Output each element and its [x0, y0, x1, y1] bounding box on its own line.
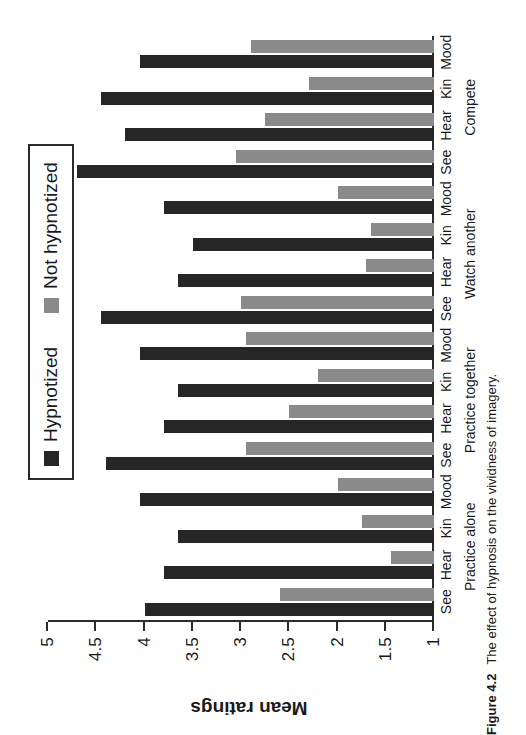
- bar-not-hypnotized: [246, 441, 434, 454]
- category-tick-label: Hear: [438, 402, 460, 434]
- bar-not-hypnotized: [371, 222, 434, 235]
- category-tick-label: Hear: [438, 109, 460, 141]
- y-axis-tick-label: 1.5: [376, 637, 396, 661]
- bar-pair: [48, 366, 434, 398]
- category-tick-label: Mood: [438, 329, 460, 361]
- y-axis-tick-label: 4.5: [86, 637, 106, 661]
- bar-pair: [48, 585, 434, 617]
- bar-pair: [48, 403, 434, 435]
- category-tick-label: Kin: [438, 512, 460, 544]
- bar-not-hypnotized: [236, 149, 434, 162]
- bar-not-hypnotized: [280, 587, 434, 600]
- bar-chart: Hypnotized Not hypnotized Mean ratings 5…: [34, 18, 464, 718]
- bar-hypnotized: [140, 55, 434, 68]
- bar-hypnotized: [178, 383, 434, 396]
- y-axis-tick: 1: [432, 622, 434, 631]
- bar-not-hypnotized: [309, 76, 434, 89]
- bar-group: [48, 328, 434, 474]
- bar-not-hypnotized: [318, 368, 434, 381]
- category-tick-label: Mood: [438, 182, 460, 214]
- category-tick-label: Mood: [438, 36, 460, 68]
- bar-pair: [48, 184, 434, 216]
- category-tick-label: See: [438, 585, 460, 617]
- bar-hypnotized: [164, 420, 434, 433]
- bar-pair: [48, 330, 434, 362]
- bar-hypnotized: [101, 310, 434, 323]
- bar-pair: [48, 111, 434, 143]
- category-tick-label: See: [438, 292, 460, 324]
- bar-hypnotized: [193, 237, 434, 250]
- y-axis-tick-label: 2.5: [279, 637, 299, 661]
- category-tick-label: Mood: [438, 475, 460, 507]
- bar-hypnotized: [77, 164, 434, 177]
- y-axis-tick-label: 3: [231, 637, 251, 647]
- category-label-group: SeeHearKinMood: [438, 327, 460, 474]
- bar-group: [48, 182, 434, 328]
- bar-not-hypnotized: [265, 113, 434, 126]
- rotated-figure-container: Hypnotized Not hypnotized Mean ratings 5…: [34, 18, 464, 718]
- bar-pair: [48, 549, 434, 581]
- bar-hypnotized: [178, 274, 434, 287]
- bar-pair: [48, 512, 434, 544]
- bar-not-hypnotized: [251, 40, 434, 53]
- bar-pair: [48, 293, 434, 325]
- bar-hypnotized: [145, 602, 435, 615]
- figure-number: Figure 4.2: [484, 674, 499, 735]
- bar-series-container: [48, 36, 434, 620]
- category-tick-label: See: [438, 146, 460, 178]
- y-axis-tick: 5: [46, 622, 48, 631]
- bar-not-hypnotized: [362, 514, 434, 527]
- bar-group: [48, 474, 434, 620]
- category-tick-label: Kin: [438, 72, 460, 104]
- category-tick-label: Hear: [438, 548, 460, 580]
- y-axis-tick-label: 2: [328, 637, 348, 647]
- bar-not-hypnotized: [289, 405, 434, 418]
- category-tick-labels: SeeHearKinMoodSeeHearKinMoodSeeHearKinMo…: [438, 34, 460, 620]
- category-tick-label: Hear: [438, 255, 460, 287]
- y-axis-tick: 3: [239, 622, 241, 631]
- category-label-group: SeeHearKinMood: [438, 180, 460, 327]
- bar-pair: [48, 476, 434, 508]
- bar-hypnotized: [164, 201, 434, 214]
- bar-pair: [48, 38, 434, 70]
- figure-caption: Figure 4.2 The effect of hypnosis on the…: [478, 0, 504, 735]
- bar-pair: [48, 220, 434, 252]
- bar-pair: [48, 257, 434, 289]
- bar-hypnotized: [101, 91, 434, 104]
- category-tick-label: Kin: [438, 219, 460, 251]
- bar-not-hypnotized: [391, 551, 434, 564]
- y-axis-tick: 2: [336, 622, 338, 631]
- bar-hypnotized: [164, 566, 434, 579]
- bar-not-hypnotized: [241, 295, 434, 308]
- bar-hypnotized: [125, 128, 434, 141]
- bar-pair: [48, 147, 434, 179]
- bar-hypnotized: [140, 493, 434, 506]
- category-label-group: SeeHearKinMood: [438, 34, 460, 181]
- bar-hypnotized: [140, 347, 434, 360]
- bar-not-hypnotized: [338, 186, 435, 199]
- y-axis-tick: 3.5: [191, 622, 193, 631]
- bar-not-hypnotized: [246, 332, 434, 345]
- y-axis-tick: 4.5: [94, 622, 96, 631]
- y-axis-tick-label: 1: [424, 637, 444, 647]
- y-axis-tick-label: 5: [38, 637, 58, 647]
- category-tick-label: Kin: [438, 365, 460, 397]
- figure-caption-text: The effect of hypnosis on the vividness …: [484, 374, 499, 665]
- y-axis-tick-label: 4: [135, 637, 155, 647]
- y-axis-tick: 4: [143, 622, 145, 631]
- bar-pair: [48, 74, 434, 106]
- plot-area: 54.543.532.521.51: [48, 36, 434, 622]
- y-axis-tick-label: 3.5: [183, 637, 203, 661]
- bar-group: [48, 36, 434, 182]
- bar-not-hypnotized: [366, 259, 434, 272]
- y-axis-tick: 2.5: [287, 622, 289, 631]
- y-axis-title: Mean ratings: [190, 697, 307, 719]
- bar-hypnotized: [106, 456, 434, 469]
- bar-pair: [48, 439, 434, 471]
- category-tick-label: See: [438, 439, 460, 471]
- figure-page: Hypnotized Not hypnotized Mean ratings 5…: [0, 0, 526, 735]
- bar-not-hypnotized: [338, 478, 435, 491]
- bar-hypnotized: [178, 529, 434, 542]
- y-axis-tick: 1.5: [384, 622, 386, 631]
- category-label-group: SeeHearKinMood: [438, 473, 460, 620]
